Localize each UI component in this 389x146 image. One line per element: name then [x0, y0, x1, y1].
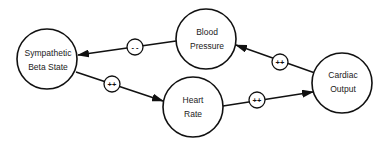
sign-label: ++	[276, 58, 285, 67]
node-label-line2: Beta State	[28, 62, 68, 72]
node-circle	[312, 53, 372, 113]
edge-cardiac-output-to-blood-pressure: ++	[236, 45, 315, 73]
edge-sympathetic-to-heart-rate: ++	[76, 72, 163, 101]
sign-label: ++	[108, 80, 117, 89]
edge-blood-pressure-to-sympathetic: - -	[78, 39, 176, 55]
node-blood-pressure: Blood Pressure	[176, 9, 236, 69]
node-sympathetic-beta-state: Sympathetic Beta State	[17, 29, 77, 89]
node-circle	[176, 9, 236, 69]
node-cardiac-output: Cardiac Output	[312, 53, 372, 113]
edge-heart-rate-to-cardiac-output: ++	[223, 92, 313, 108]
node-circle	[163, 77, 223, 137]
sign-label: - -	[131, 43, 139, 52]
causal-loop-diagram: - - ++ ++ ++ Sympathetic Beta State	[0, 0, 389, 146]
node-heart-rate: Heart Rate	[163, 77, 223, 137]
edge-line	[223, 92, 313, 106]
node-label-line2: Output	[330, 84, 356, 94]
node-circle	[17, 29, 77, 89]
node-label-line2: Rate	[184, 109, 202, 119]
node-label-line2: Pressure	[190, 41, 224, 51]
node-label-line1: Sympathetic	[25, 48, 73, 58]
node-label-line1: Cardiac	[328, 70, 358, 80]
diagram-svg: - - ++ ++ ++ Sympathetic Beta State	[0, 0, 389, 146]
node-label-line1: Blood	[196, 27, 218, 37]
node-label-line1: Heart	[183, 95, 204, 105]
sign-label: ++	[253, 96, 262, 105]
